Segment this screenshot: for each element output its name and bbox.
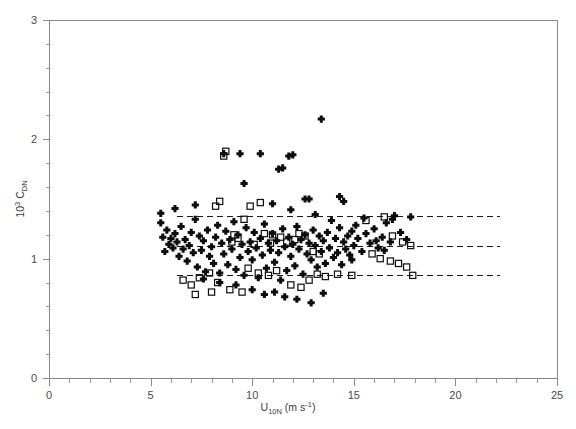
data-point-plus [224, 261, 231, 268]
scatter-plot-figure: 0510152025 0123 U10N (m s-1) 103 CDN [0, 0, 576, 429]
data-point-plus [222, 228, 229, 235]
data-point-plus [336, 193, 343, 200]
data-point-plus [308, 299, 315, 306]
data-point-plus [330, 254, 337, 261]
data-point-plus [281, 293, 288, 300]
data-point-plus [184, 257, 191, 264]
x-tick-label: 5 [148, 389, 154, 401]
y-axis-ticks [43, 21, 50, 379]
y-tick-label: 2 [31, 133, 37, 145]
data-point-plus [287, 253, 294, 260]
data-point-square [395, 260, 401, 266]
data-point-square [188, 282, 194, 288]
data-point-plus [261, 291, 268, 298]
data-point-plus [371, 225, 378, 232]
data-point-plus [407, 213, 414, 220]
data-point-square [227, 287, 233, 293]
data-point-square [273, 268, 279, 274]
data-point-square [404, 264, 410, 270]
data-point-plus [196, 232, 203, 239]
data-point-plus [210, 260, 217, 267]
data-point-plus [318, 115, 325, 122]
data-point-square [239, 289, 245, 295]
data-point-square [310, 248, 316, 254]
data-point-square [192, 291, 198, 297]
plot-canvas: 0510152025 0123 U10N (m s-1) 103 CDN [0, 0, 576, 429]
data-point-plus [245, 248, 252, 255]
data-point-plus [249, 256, 256, 263]
data-point-plus [161, 248, 168, 255]
data-point-plus [206, 253, 213, 260]
data-point-square [245, 265, 251, 271]
data-point-plus [332, 235, 339, 242]
data-point-plus [277, 277, 284, 284]
data-point-plus [188, 229, 195, 236]
data-point-plus [249, 286, 256, 293]
data-point-square [389, 233, 395, 239]
data-point-plus [267, 247, 274, 254]
data-point-plus [354, 235, 361, 242]
data-point-plus [251, 229, 258, 236]
data-point-plus [287, 206, 294, 213]
data-point-plus [159, 234, 166, 241]
data-point-plus [338, 261, 345, 268]
x-tick-label: 15 [348, 389, 360, 401]
data-point-square [334, 271, 340, 277]
data-point-plus [322, 260, 329, 267]
data-point-plus [350, 242, 357, 249]
data-point-plus [259, 251, 266, 258]
data-point-plus [344, 232, 351, 239]
data-point-square [387, 258, 393, 264]
data-point-plus [326, 244, 333, 251]
data-point-plus [220, 250, 227, 257]
y-tick-label: 0 [31, 372, 37, 384]
y-tick-labels: 0123 [31, 14, 37, 384]
data-point-plus [279, 225, 286, 232]
data-point-square [208, 289, 214, 295]
data-point-square [377, 256, 383, 262]
svg-text:103 CDN: 103 CDN [13, 180, 29, 217]
data-point-plus [194, 263, 201, 270]
data-point-square [296, 231, 302, 237]
data-point-plus [212, 234, 219, 241]
data-point-plus [334, 249, 341, 256]
data-point-plus [328, 217, 335, 224]
x-tick-label: 20 [449, 389, 461, 401]
data-point-square [314, 271, 320, 277]
data-point-square [322, 273, 328, 279]
data-point-plus [163, 226, 170, 233]
data-point-plus [232, 266, 239, 273]
data-point-plus [293, 223, 300, 230]
data-point-plus [157, 219, 164, 226]
data-point-plus [308, 256, 315, 263]
data-point-plus [340, 198, 347, 205]
data-point-square [369, 251, 375, 257]
data-point-square [288, 282, 294, 288]
data-point-plus [208, 243, 215, 250]
data-point-plus [318, 248, 325, 255]
data-point-plus [243, 224, 250, 231]
y-tick-label: 3 [31, 14, 37, 26]
data-point-plus [362, 230, 369, 237]
data-point-square [408, 242, 414, 248]
data-point-plus [198, 247, 205, 254]
data-point-plus [320, 290, 327, 297]
data-point-square [247, 203, 253, 209]
data-point-plus [177, 223, 184, 230]
data-point-plus [271, 259, 278, 266]
data-point-square [241, 216, 247, 222]
data-point-plus [236, 150, 243, 157]
data-point-plus [358, 248, 365, 255]
data-point-plus [192, 201, 199, 208]
x-tick-label: 10 [246, 389, 258, 401]
data-point-plus [236, 254, 243, 261]
x-tick-label: 0 [46, 389, 52, 401]
data-point-plus [336, 224, 343, 231]
data-point-plus [275, 249, 282, 256]
data-point-plus [293, 296, 300, 303]
data-point-plus [175, 253, 182, 260]
data-point-plus [310, 226, 317, 233]
data-point-plus [261, 220, 268, 227]
data-point-plus [218, 240, 225, 247]
x-tick-label: 25 [551, 389, 563, 401]
